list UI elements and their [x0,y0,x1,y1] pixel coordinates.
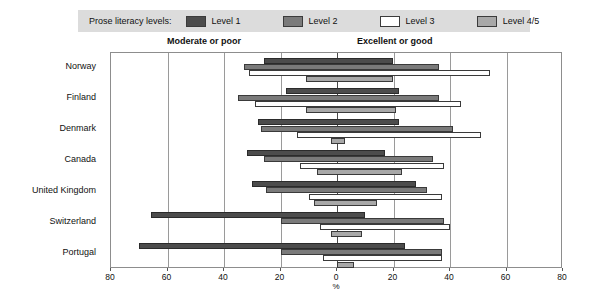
legend-entry-l1[interactable]: Level 1 [186,16,241,27]
bar-l45 [314,200,376,206]
legend-swatch-l1-icon [186,16,206,27]
x-axis-tickmark-3 [280,268,281,271]
bar-l2 [261,126,453,132]
bar-l2 [244,64,439,70]
bar-l1 [286,88,399,94]
legend-entries: Level 1Level 2Level 3Level 4/5 [172,16,540,27]
bar-l1 [252,181,416,187]
legend-title: Prose literacy levels: [89,16,172,26]
legend-swatch-l45-icon [477,16,497,27]
bar-l1 [151,212,366,218]
x-axis-tickmark-7 [506,268,507,271]
bar-l2 [266,187,427,193]
x-axis-unit-label: % [332,282,339,291]
bar-l3 [255,101,461,107]
bar-l3 [320,224,450,230]
bar-l2 [264,156,434,162]
bar-l1 [139,243,405,249]
x-axis-tick-1: 60 [162,272,171,282]
legend-entry-l45[interactable]: Level 4/5 [477,16,540,27]
bar-l2 [281,218,445,224]
bar-l1 [247,150,385,156]
bar-l45 [306,107,396,113]
bar-l3 [249,70,489,76]
bar-l45 [337,262,354,268]
chart-legend: Prose literacy levels: Level 1Level 2Lev… [78,10,530,32]
chart-row [111,115,561,146]
y-axis-label-denmark: Denmark [59,123,96,133]
legend-label-l3: Level 3 [406,16,435,26]
heading-moderate-or-poor: Moderate or poor [167,36,241,46]
x-axis-tickmark-4 [336,268,337,271]
x-axis-tickmark-1 [167,268,168,271]
bar-l2 [238,95,439,101]
x-axis-tick-7: 60 [501,272,510,282]
legend-label-l45: Level 4/5 [503,16,540,26]
x-axis-tickmark-2 [223,268,224,271]
y-axis-labels: NorwayFinlandDenmarkCanadaUnited Kingdom… [0,52,104,268]
legend-entry-l2[interactable]: Level 2 [283,16,338,27]
x-axis-tick-0: 80 [105,272,114,282]
chart-row [111,207,561,238]
x-axis-tick-5: 20 [388,272,397,282]
legend-swatch-l3-icon [380,16,400,27]
chart-row [111,238,561,269]
x-axis-tick-3: 20 [275,272,284,282]
bar-l45 [331,138,345,144]
bar-l2 [281,249,442,255]
heading-excellent-or-good: Excellent or good [357,36,433,46]
y-axis-label-portugal: Portugal [62,247,96,257]
x-axis-tickmark-0 [110,268,111,271]
legend-label-l2: Level 2 [309,16,338,26]
y-axis-label-switzerland: Switzerland [49,216,96,226]
y-axis-label-norway: Norway [65,61,96,71]
x-axis-tickmark-8 [562,268,563,271]
bar-l3 [309,194,442,200]
bar-l1 [264,58,394,64]
x-axis-tick-6: 40 [444,272,453,282]
x-axis-tick-8: 80 [557,272,566,282]
bar-l45 [317,169,402,175]
bar-l45 [306,76,394,82]
chart-row [111,53,561,84]
bar-l3 [297,132,481,138]
legend-label-l1: Level 1 [212,16,241,26]
bar-l1 [258,119,399,125]
chart-row [111,84,561,115]
bar-l45 [331,231,362,237]
bar-l3 [323,255,442,261]
x-axis-tick-2: 40 [218,272,227,282]
x-axis-tickmark-5 [393,268,394,271]
x-axis: % 80604020020406080 [110,268,562,298]
chart-row [111,176,561,207]
bar-l3 [300,163,444,169]
legend-entry-l3[interactable]: Level 3 [380,16,435,27]
plot-area [110,52,562,268]
chart-row [111,146,561,177]
y-axis-label-united-kingdom: United Kingdom [32,185,96,195]
legend-swatch-l2-icon [283,16,303,27]
y-axis-label-canada: Canada [64,154,96,164]
x-axis-tickmark-6 [449,268,450,271]
chart-figure: Prose literacy levels: Level 1Level 2Lev… [0,0,589,298]
y-axis-label-finland: Finland [66,92,96,102]
x-axis-tick-4: 0 [334,272,339,282]
